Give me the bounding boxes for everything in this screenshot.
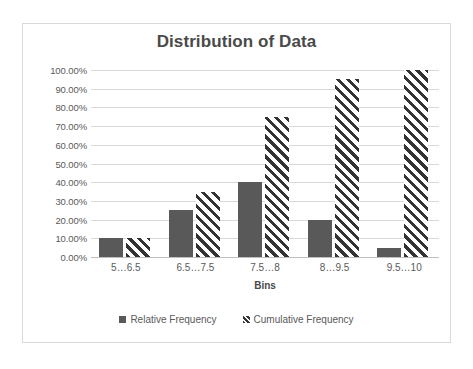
y-axis-tick-label: 100.00%	[50, 65, 87, 76]
bin-group	[230, 70, 300, 257]
x-axis-tick-label: 5…6.5	[91, 262, 161, 273]
bar-relative-frequency[interactable]	[377, 248, 401, 257]
plot-wrapper: 0.00%10.00%20.00%30.00%40.00%50.00%60.00…	[23, 24, 450, 342]
x-axis-tick-label: 9.5…10	[369, 262, 439, 273]
bin-group	[161, 70, 231, 257]
y-axis-tick-labels: 0.00%10.00%20.00%30.00%40.00%50.00%60.00…	[35, 70, 87, 257]
chart-legend: Relative FrequencyCumulative Frequency	[23, 314, 450, 325]
bar-cumulative-frequency[interactable]	[335, 79, 359, 257]
legend-label: Cumulative Frequency	[254, 314, 354, 325]
y-axis-tick-label: 80.00%	[55, 102, 87, 113]
legend-item[interactable]: Relative Frequency	[119, 314, 216, 325]
y-axis-tick-label: 20.00%	[55, 214, 87, 225]
hatched-square-marker-icon	[243, 316, 250, 323]
bin-group	[91, 70, 161, 257]
y-axis-tick-label: 60.00%	[55, 139, 87, 150]
y-axis-tick-label: 0.00%	[61, 252, 87, 263]
bar-relative-frequency[interactable]	[169, 210, 193, 257]
y-axis-tick-label: 40.00%	[55, 177, 87, 188]
legend-label: Relative Frequency	[130, 314, 216, 325]
bar-cumulative-frequency[interactable]	[196, 192, 220, 257]
bin-group	[300, 70, 370, 257]
x-axis-tick-label: 7.5…8	[230, 262, 300, 273]
solid-square-marker-icon	[119, 316, 126, 323]
bar-cumulative-frequency[interactable]	[404, 70, 428, 257]
bin-group	[369, 70, 439, 257]
axis-baseline	[91, 257, 439, 258]
y-axis-tick-label: 90.00%	[55, 83, 87, 94]
legend-item[interactable]: Cumulative Frequency	[243, 314, 354, 325]
y-axis-tick-label: 30.00%	[55, 195, 87, 206]
bar-series-layer	[91, 70, 439, 257]
y-axis-tick-label: 70.00%	[55, 121, 87, 132]
x-axis-tick-label: 6.5…7.5	[160, 262, 230, 273]
y-axis-tick-label: 10.00%	[55, 233, 87, 244]
x-axis-tick-label: 8…9.5	[300, 262, 370, 273]
x-axis-tick-labels: 5…6.56.5…7.57.5…88…9.59.5…10	[91, 262, 439, 278]
bar-relative-frequency[interactable]	[308, 220, 332, 257]
chart-container: Distribution of Data 0.00%10.00%20.00%30…	[22, 23, 451, 343]
bar-relative-frequency[interactable]	[238, 182, 262, 257]
bar-cumulative-frequency[interactable]	[265, 117, 289, 257]
y-axis-tick-label: 50.00%	[55, 158, 87, 169]
bar-cumulative-frequency[interactable]	[126, 238, 150, 257]
plot-area	[91, 70, 439, 257]
x-axis-title: Bins	[91, 280, 439, 291]
bar-relative-frequency[interactable]	[99, 238, 123, 257]
